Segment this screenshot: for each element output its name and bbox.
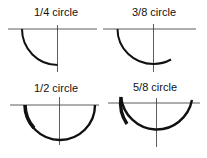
- panel-half-circle: [10, 97, 99, 145]
- needle-arc: [25, 105, 95, 140]
- panel-five-eighths-circle: [108, 97, 200, 147]
- panel-three-eighths-circle: [103, 24, 196, 72]
- needle-arc: [118, 29, 172, 64]
- diagram-canvas: [0, 0, 207, 158]
- needle-arc-thick-end: [25, 105, 34, 128]
- panel-quarter-circle: [8, 25, 97, 72]
- needle-arc: [22, 29, 58, 65]
